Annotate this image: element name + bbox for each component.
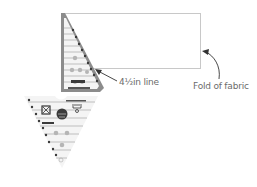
fold-label: Fold of fabric <box>193 81 249 91</box>
ruler-diagram: 4½in line Fold of fabric <box>0 0 257 187</box>
line-label: 4½in line <box>119 77 159 87</box>
diagram-canvas <box>0 0 257 187</box>
fold-arrow <box>202 49 219 79</box>
lower-ruler <box>20 93 98 168</box>
